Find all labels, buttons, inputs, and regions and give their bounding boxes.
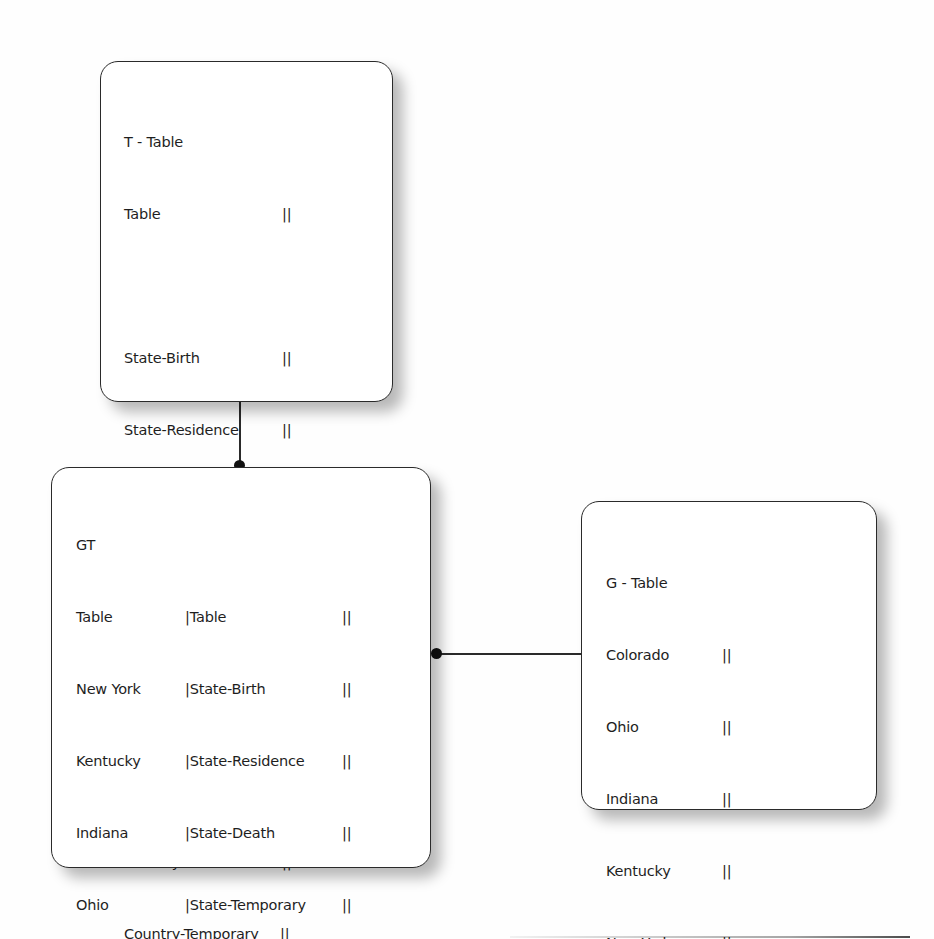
- field-key: Kentucky: [76, 749, 141, 773]
- diagram-canvas: T - Table Table|| State-Birth|| State-Re…: [0, 0, 934, 939]
- field-separator: ||: [280, 922, 289, 939]
- connector-t-to-gt: [239, 402, 241, 465]
- field-separator: ||: [722, 787, 731, 811]
- field-key: Table: [76, 605, 113, 629]
- g-table-content: G - Table Colorado|| Ohio|| Indiana|| Ke…: [606, 523, 632, 939]
- field-label: State-Residence: [124, 418, 239, 442]
- field-ref: |State-Temporary: [185, 893, 306, 917]
- field-label: Table: [124, 202, 161, 226]
- t-table-entity: T - Table Table|| State-Birth|| State-Re…: [100, 61, 393, 402]
- connector-endpoint-dot: [431, 648, 442, 659]
- field-separator: ||: [722, 643, 731, 667]
- entity-title: GT: [76, 533, 95, 557]
- entity-title: T - Table: [124, 130, 183, 154]
- field-label: Colorado: [606, 643, 669, 667]
- field-ref: |State-Birth: [185, 677, 265, 701]
- field-ref: |State-Residence: [185, 749, 304, 773]
- field-separator: ||: [722, 715, 731, 739]
- field-label: Ohio: [606, 715, 639, 739]
- field-key: Indiana: [76, 821, 128, 845]
- connector-g-to-gt: [436, 653, 581, 655]
- field-ref: |State-Death: [185, 821, 275, 845]
- field-separator: ||: [342, 677, 351, 701]
- field-separator: ||: [342, 821, 351, 845]
- field-label: State-Birth: [124, 346, 200, 370]
- field-separator: ||: [282, 202, 291, 226]
- gt-table-content: GT Table|Table|| New York|State-Birth|| …: [76, 485, 102, 939]
- field-separator: ||: [282, 418, 291, 442]
- field-label: Country-Temporary: [124, 922, 259, 939]
- spacer: [124, 274, 150, 298]
- entity-title: G - Table: [606, 571, 667, 595]
- field-separator: ||: [282, 346, 291, 370]
- field-separator: ||: [342, 749, 351, 773]
- field-key: Ohio: [76, 893, 109, 917]
- field-label: Indiana: [606, 787, 658, 811]
- field-separator: ||: [342, 605, 351, 629]
- field-ref: |Table: [185, 605, 226, 629]
- g-table-entity: G - Table Colorado|| Ohio|| Indiana|| Ke…: [581, 501, 877, 810]
- field-label: Kentucky: [606, 859, 671, 883]
- field-key: New York: [76, 677, 141, 701]
- field-separator: ||: [722, 859, 731, 883]
- field-separator: ||: [342, 893, 351, 917]
- bottom-rule-divider: [510, 936, 910, 938]
- gt-table-entity: GT Table|Table|| New York|State-Birth|| …: [51, 467, 431, 868]
